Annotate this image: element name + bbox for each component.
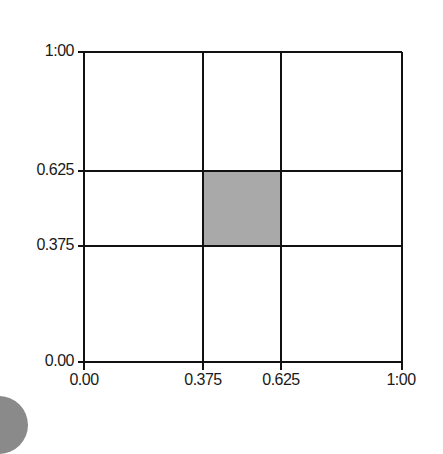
y-tick-label-1: 1:00	[4, 43, 74, 59]
x-tick-label-0375: 0.375	[184, 372, 222, 388]
shaded-center-cell	[204, 172, 281, 246]
y-tick-label-0: 0.00	[4, 353, 74, 369]
x-tick-label-0625: 0.625	[262, 372, 300, 388]
y-tick-label-0375: 0.375	[4, 237, 74, 253]
x-tick-label-1: 1:00	[386, 372, 415, 388]
y-tick-label-0625: 0.625	[4, 162, 74, 178]
x-tick-label-0: 0.00	[69, 372, 98, 388]
